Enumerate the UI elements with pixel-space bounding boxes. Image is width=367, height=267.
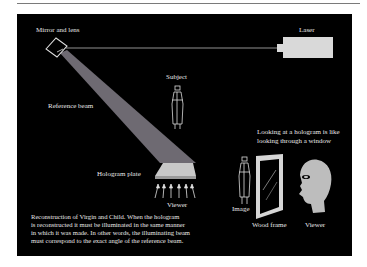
image-figure-icon: [239, 157, 250, 204]
hologram-plate-icon: [155, 163, 196, 179]
wood-frame-icon: [256, 154, 283, 219]
caption-line-3: in which it was made. In other words, th…: [31, 229, 211, 237]
subject-figure-icon: [172, 86, 183, 129]
caption-line-1: Reconstruction of Virgin and Child. When…: [31, 213, 211, 221]
caption: Reconstruction of Virgin and Child. When…: [31, 213, 211, 245]
viewer-bottom-label: Viewer: [167, 201, 187, 209]
laser-icon: [277, 37, 333, 58]
mirror-lens-label: Mirror and lens: [36, 26, 80, 34]
wood-frame-label: Wood frame: [252, 221, 287, 229]
laser-label: Laser: [299, 26, 315, 34]
image-label: Image: [232, 205, 250, 213]
window-note-line2: looking through a window: [257, 137, 331, 145]
viewer-right-label: Viewer: [305, 221, 325, 229]
viewer-head-icon: [299, 160, 331, 213]
viewer-arrows-icon: [155, 184, 195, 198]
subject-label: Subject: [166, 73, 187, 81]
reference-beam-label: Reference beam: [48, 102, 93, 110]
caption-line-4: must correspond to the exact angle of th…: [31, 237, 211, 245]
window-note-line1: Looking at a hologram is like: [257, 128, 340, 136]
hologram-plate-label: Hologram plate: [97, 170, 141, 178]
caption-line-2: is reconstructed it must be illuminated …: [31, 221, 211, 229]
